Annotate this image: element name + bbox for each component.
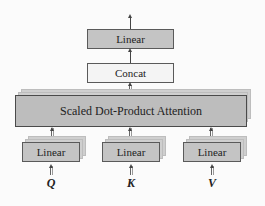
linear-q-label: Linear xyxy=(37,146,66,158)
output-arrow-head-icon xyxy=(128,14,132,18)
concat-to-linear-line xyxy=(130,51,131,63)
k-input-arrow-icon xyxy=(129,164,133,168)
linear-v-to-attention-arrow-icon xyxy=(209,127,213,131)
linear-v-label: Linear xyxy=(198,146,227,158)
k-label: K xyxy=(121,176,141,191)
top-linear-label: Linear xyxy=(116,33,145,45)
attention-label: Scaled Dot-Product Attention xyxy=(60,104,202,119)
concat-label: Concat xyxy=(115,67,146,79)
linear-v-box: Linear xyxy=(183,142,241,162)
v-input-arrow-icon xyxy=(210,164,214,168)
multi-head-attention-diagram: Linear Concat Scaled Dot-Product Attenti… xyxy=(0,0,265,206)
q-input-arrow-icon xyxy=(49,164,53,168)
q-label: Q xyxy=(41,176,61,191)
attention-box: Scaled Dot-Product Attention xyxy=(15,95,247,127)
concat-box: Concat xyxy=(87,63,174,83)
linear-k-box: Linear xyxy=(102,142,160,162)
attention-to-concat-arrow-icon xyxy=(128,82,132,86)
concat-to-linear-arrow-icon xyxy=(128,48,132,52)
linear-q-box: Linear xyxy=(22,142,80,162)
linear-k-label: Linear xyxy=(117,146,146,158)
top-linear-box: Linear xyxy=(87,29,174,49)
linear-k-to-attention-arrow-icon xyxy=(128,127,132,131)
v-label: V xyxy=(202,176,222,191)
linear-q-to-attention-arrow-icon xyxy=(50,127,54,131)
